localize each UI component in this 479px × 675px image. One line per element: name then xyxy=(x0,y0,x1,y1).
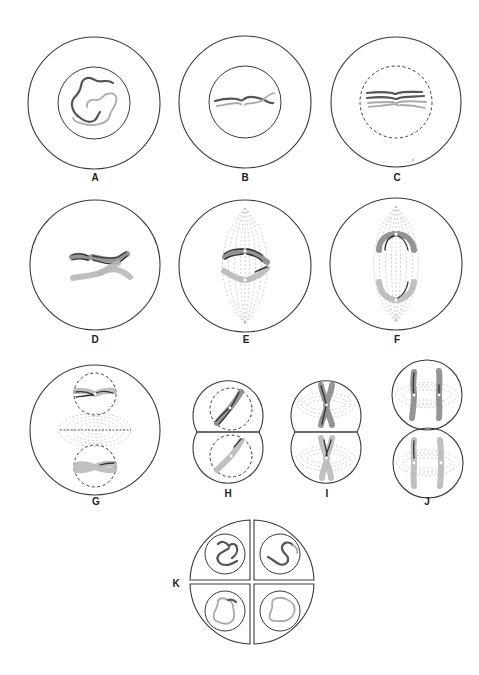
panel-label: H xyxy=(224,488,231,499)
spindle-fibers xyxy=(223,208,268,324)
chromatid-dark xyxy=(367,96,424,99)
panel-label: B xyxy=(241,172,248,183)
cell-membrane xyxy=(30,200,160,330)
panel-label: J xyxy=(424,496,430,507)
centromere xyxy=(229,407,232,410)
centromere xyxy=(325,457,328,460)
spindle-lower xyxy=(396,450,460,476)
chromatid-light xyxy=(369,104,425,108)
tetrad-cell-top-right xyxy=(254,520,314,580)
panel-k: K xyxy=(172,520,314,644)
panel-label: K xyxy=(172,578,180,589)
chromosome-light xyxy=(214,598,235,623)
panel-label: G xyxy=(92,496,100,507)
nucleus xyxy=(205,591,245,631)
tetrad-cell-bottom-right xyxy=(254,584,314,644)
chromosome-dark xyxy=(268,543,293,565)
centromere xyxy=(413,462,416,465)
panel-e: E xyxy=(179,200,311,345)
panel-label: I xyxy=(326,488,329,499)
panel-label: F xyxy=(394,334,400,345)
centromere xyxy=(244,279,247,282)
centromere xyxy=(413,394,416,397)
cell-membrane xyxy=(331,37,461,167)
panel-c: C xyxy=(331,37,461,183)
panel-b: B xyxy=(179,36,311,183)
tetrad-cell-top-left xyxy=(190,520,250,580)
panel-label: A xyxy=(91,172,98,183)
chromatid-dark xyxy=(367,92,422,94)
centromere xyxy=(325,404,328,407)
centromere xyxy=(440,462,443,465)
daughter-cell-lower xyxy=(393,428,463,498)
panel-i: I xyxy=(291,381,361,499)
centromere xyxy=(244,250,247,253)
panel-a: A xyxy=(28,37,160,183)
panel-f: F xyxy=(330,198,462,345)
panel-g: G xyxy=(30,365,160,507)
centromere xyxy=(395,299,398,302)
homolog-upper xyxy=(379,234,414,250)
chromosome-dark xyxy=(217,542,237,565)
chromosome-lower xyxy=(217,441,241,470)
centromere xyxy=(230,455,233,458)
speck xyxy=(412,159,414,161)
nucleus xyxy=(260,534,300,574)
spindle-upper xyxy=(395,382,459,408)
cell-membrane xyxy=(179,36,311,168)
nucleus xyxy=(58,67,130,139)
panel-j: J xyxy=(392,360,463,507)
centromere xyxy=(438,394,441,397)
panel-label: C xyxy=(393,172,400,183)
cell-membrane xyxy=(28,37,160,169)
tetrad-cell-bottom-left xyxy=(190,584,250,644)
chromatid-light xyxy=(368,101,426,103)
panel-h: H xyxy=(193,381,263,499)
nucleus xyxy=(205,534,245,574)
centromere xyxy=(94,393,97,396)
spindle-fibers xyxy=(374,206,419,322)
centromere xyxy=(242,103,245,106)
chromosome-lower xyxy=(76,464,114,471)
chromatid-upper-core xyxy=(413,373,439,395)
centromere xyxy=(395,233,398,236)
panel-label: D xyxy=(91,334,98,345)
panel-label: E xyxy=(243,334,250,345)
chromosome-light xyxy=(269,598,294,621)
chromosome-light xyxy=(293,545,297,553)
homolog-lower xyxy=(379,282,414,300)
daughter-cell-upper xyxy=(392,360,462,430)
meiosis-diagram: A B C D xyxy=(0,0,479,675)
panel-d: D xyxy=(30,200,160,345)
